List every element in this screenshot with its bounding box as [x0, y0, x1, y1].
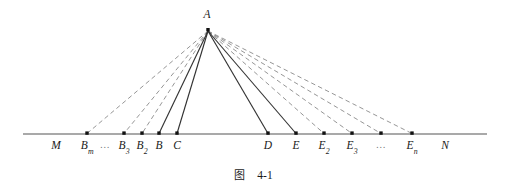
apex-label-A: A — [203, 9, 210, 21]
ray-A-to-C — [177, 31, 208, 134]
dot-E-3 — [350, 131, 353, 134]
label-D-text: D — [264, 139, 272, 151]
ray-A-to-B-m — [87, 31, 208, 134]
label-B-3-subscript: 3 — [126, 147, 130, 156]
label-E-3: E3 — [347, 140, 358, 154]
label-E-n-subscript: n — [414, 147, 418, 156]
label-B-m-subscript: m — [88, 147, 94, 156]
label-B: B — [155, 140, 162, 152]
dot-E-n — [410, 131, 413, 134]
label-B-2: B2 — [137, 140, 148, 154]
label-E-text: E — [292, 139, 299, 151]
label-left-ellipsis-text: … — [100, 139, 111, 150]
label-B-3-text: B — [119, 139, 126, 151]
label-endpoint-M-text: M — [51, 139, 61, 151]
caption-number: 4-1 — [257, 169, 272, 181]
label-B-3: B3 — [119, 140, 130, 154]
label-endpoint-N-text: N — [441, 139, 449, 151]
dot-B-3 — [122, 131, 125, 134]
geometry-diagram — [0, 0, 507, 195]
solid-ray-group — [159, 31, 296, 134]
label-E: E — [292, 140, 299, 152]
ray-A-to-B-2 — [142, 31, 208, 134]
ray-A-to-E-3 — [208, 31, 352, 134]
label-E-2-subscript: 2 — [326, 147, 330, 156]
label-right-ellipsis-text: … — [376, 139, 387, 150]
label-B-m: Bm — [81, 140, 94, 154]
label-E-n-text: E — [407, 139, 414, 151]
label-E-2-text: E — [319, 139, 326, 151]
label-B-m-text: B — [81, 139, 88, 151]
label-B-2-subscript: 2 — [144, 147, 148, 156]
label-E-3-subscript: 3 — [354, 147, 358, 156]
ray-A-to-right-ellipsis — [208, 31, 381, 134]
label-C-text: C — [173, 139, 181, 151]
label-left-ellipsis: … — [100, 140, 111, 150]
label-endpoint-N: N — [441, 140, 449, 152]
figure-container: Bm…B3B2BCDEE2E3…EnMN A 图4-1 — [0, 0, 507, 195]
ray-A-to-E — [208, 31, 296, 134]
label-right-ellipsis: … — [376, 140, 387, 150]
label-B-text: B — [155, 139, 162, 151]
dot-E — [294, 131, 297, 134]
label-E-n: En — [407, 140, 418, 154]
caption-cjk-text: 图 — [234, 169, 245, 182]
label-E-3-text: E — [347, 139, 354, 151]
apex-dot-A — [206, 28, 209, 31]
label-B-2-text: B — [137, 139, 144, 151]
dot-E-2 — [322, 131, 325, 134]
label-D: D — [264, 140, 272, 152]
label-E-2: E2 — [319, 140, 330, 154]
dot-right-ellipsis — [379, 131, 382, 134]
dot-C — [175, 131, 178, 134]
figure-caption: 图4-1 — [0, 170, 507, 182]
dot-D — [266, 131, 269, 134]
ray-A-to-E-2 — [208, 31, 324, 134]
dashed-ray-group — [87, 31, 412, 134]
dot-B — [157, 131, 160, 134]
dot-B-2 — [140, 131, 143, 134]
label-endpoint-M: M — [51, 140, 61, 152]
dot-B-m — [85, 131, 88, 134]
label-C: C — [173, 140, 181, 152]
